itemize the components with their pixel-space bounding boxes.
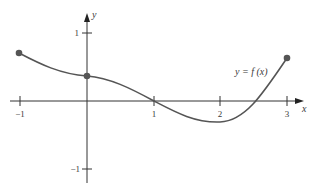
x-tick-label-neg1: −1 <box>15 109 25 119</box>
x-tick-label-1: 1 <box>152 109 157 119</box>
function-graph: −1 1 2 3 1 −1 x y y = f (x) <box>0 0 312 189</box>
y-axis-label: y <box>91 9 97 20</box>
y-tick-label-neg1: −1 <box>70 164 80 174</box>
endpoint-right <box>284 55 291 62</box>
y-tick-label-1: 1 <box>75 28 80 38</box>
x-tick-label-3: 3 <box>285 109 290 119</box>
x-tick-label-2: 2 <box>218 109 223 119</box>
y-intercept-point <box>84 73 91 80</box>
curve-label: y = f (x) <box>234 66 268 78</box>
y-axis-arrow-icon <box>84 13 90 22</box>
x-axis-label: x <box>301 103 307 114</box>
endpoint-left <box>16 50 23 57</box>
